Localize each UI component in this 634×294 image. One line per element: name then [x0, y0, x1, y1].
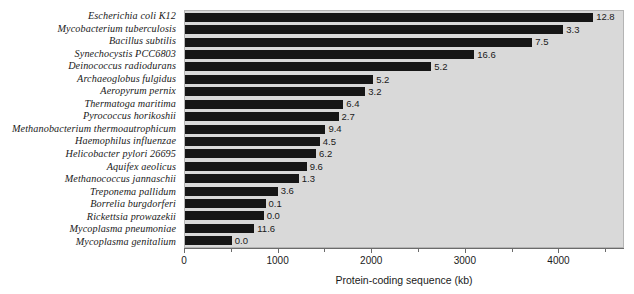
bar — [185, 13, 593, 22]
bar-value-label: 5.2 — [434, 62, 447, 72]
category-label: Escherichia coli K12 — [0, 10, 180, 23]
x-tick-minor — [512, 248, 513, 252]
bar-row: 0.0 — [185, 235, 623, 247]
bar-row: 5.2 — [185, 61, 623, 73]
bar-value-label: 6.2 — [319, 149, 332, 159]
x-tick-label: 4000 — [547, 255, 569, 266]
x-tick-major — [465, 248, 466, 253]
bar-row: 9.6 — [185, 160, 623, 172]
category-label: Helicobacter pylori 26695 — [0, 148, 180, 161]
x-tick-label: 0 — [181, 255, 187, 266]
category-label: Mycobacterium tuberculosis — [0, 23, 180, 36]
x-tick-minor — [231, 248, 232, 252]
x-tick-major — [558, 248, 559, 253]
bar-row: 16.6 — [185, 48, 623, 60]
bar — [185, 224, 254, 233]
bar-value-label: 16.6 — [477, 50, 496, 60]
bar — [185, 62, 431, 71]
bar — [185, 75, 373, 84]
bar-row: 5.2 — [185, 73, 623, 85]
category-label: Aquifex aeolicus — [0, 160, 180, 173]
bar — [185, 211, 264, 220]
bar-value-label: 2.7 — [342, 112, 355, 122]
x-tick-major — [184, 248, 185, 253]
bar-row: 12.8 — [185, 11, 623, 23]
category-label: Bacillus subtilis — [0, 35, 180, 48]
bar-value-label: 3.6 — [281, 186, 294, 196]
x-tick-label: 2000 — [360, 255, 382, 266]
bar — [185, 236, 232, 245]
category-label: Deinococcus radiodurans — [0, 60, 180, 73]
bar — [185, 25, 563, 34]
bar-value-label: 3.3 — [566, 25, 579, 35]
bar-row: 0.0 — [185, 210, 623, 222]
bar-row: 4.5 — [185, 135, 623, 147]
bar-value-label: 11.6 — [257, 224, 275, 234]
category-label: Borrelia burgdorferi — [0, 198, 180, 211]
bar-value-label: 6.4 — [346, 99, 359, 109]
bar — [185, 112, 339, 121]
bar-row: 9.4 — [185, 123, 623, 135]
bar — [185, 87, 365, 96]
x-tick-label: 1000 — [266, 255, 288, 266]
bar — [185, 199, 266, 208]
category-label: Methanococcus jannaschii — [0, 173, 180, 186]
bar-row: 3.6 — [185, 185, 623, 197]
x-axis-title: Protein-coding sequence (kb) — [184, 274, 624, 286]
bar-value-label: 9.4 — [328, 124, 341, 134]
category-label: Mycoplasma pneumoniae — [0, 223, 180, 236]
plot-area: 12.83.37.516.65.25.23.26.42.79.44.56.29.… — [184, 10, 624, 248]
category-label-column: Escherichia coli K12Mycobacterium tuberc… — [0, 10, 180, 248]
bar-chart: Escherichia coli K12Mycobacterium tuberc… — [0, 0, 634, 294]
bar-value-label: 12.8 — [596, 12, 615, 22]
bar-row: 7.5 — [185, 36, 623, 48]
bar-row: 3.3 — [185, 23, 623, 35]
category-label: Archaeoglobus fulgidus — [0, 73, 180, 86]
bar-value-label: 1.3 — [302, 174, 315, 184]
category-label: Treponema pallidum — [0, 185, 180, 198]
bar — [185, 162, 307, 171]
bar-value-label: 0.0 — [267, 211, 280, 221]
category-label: Aeropyrum pernix — [0, 85, 180, 98]
bar-value-label: 0.0 — [235, 236, 248, 246]
category-label: Synechocystis PCC6803 — [0, 48, 180, 61]
bar — [185, 137, 320, 146]
bar-row: 6.4 — [185, 98, 623, 110]
x-tick-minor — [605, 248, 606, 252]
bar-row: 1.3 — [185, 172, 623, 184]
bars-layer: 12.83.37.516.65.25.23.26.42.79.44.56.29.… — [185, 11, 623, 247]
category-label: Thermatoga maritima — [0, 98, 180, 111]
bar — [185, 187, 278, 196]
category-label: Rickettsia prowazekii — [0, 211, 180, 224]
bar — [185, 174, 299, 183]
bar-row: 11.6 — [185, 222, 623, 234]
bar-value-label: 4.5 — [323, 137, 336, 147]
bar-value-label: 9.6 — [310, 162, 323, 172]
bar-value-label: 5.2 — [376, 75, 389, 85]
x-tick-label: 3000 — [454, 255, 476, 266]
bar-row: 3.2 — [185, 86, 623, 98]
bar-value-label: 7.5 — [535, 37, 548, 47]
x-tick-minor — [324, 248, 325, 252]
x-tick-major — [278, 248, 279, 253]
bar-row: 6.2 — [185, 148, 623, 160]
category-label: Pyrococcus horikoshii — [0, 110, 180, 123]
bar — [185, 100, 343, 109]
category-label: Methanobacterium thermoautrophicum — [0, 123, 180, 136]
bar-row: 2.7 — [185, 110, 623, 122]
bar-value-label: 0.1 — [269, 199, 282, 209]
x-tick-major — [371, 248, 372, 253]
bar — [185, 50, 474, 59]
x-tick-minor — [418, 248, 419, 252]
bar — [185, 149, 316, 158]
bar — [185, 38, 532, 47]
category-label: Mycoplasma genitalium — [0, 236, 180, 249]
bar — [185, 125, 325, 134]
bar-value-label: 3.2 — [368, 87, 381, 97]
bar-row: 0.1 — [185, 197, 623, 209]
category-label: Haemophilus influenzae — [0, 135, 180, 148]
